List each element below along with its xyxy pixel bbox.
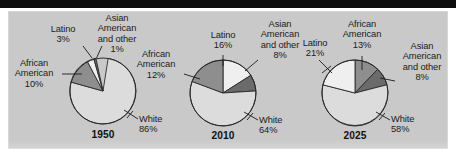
label-1950-african-line2: American: [15, 68, 53, 78]
label-2010-african-american: African American 12%: [128, 49, 184, 80]
label-2025-white-name: White: [391, 114, 414, 124]
year-label-2010: 2010: [203, 130, 243, 141]
label-2025-african-line1: African: [348, 19, 376, 29]
label-1950-asian-value: 1%: [110, 44, 123, 54]
label-2025-latino: Latino 21%: [292, 38, 338, 59]
label-2025-african-value: 13%: [353, 40, 371, 50]
label-2025-latino-name: Latino: [303, 38, 328, 48]
label-2025-white-value: 58%: [391, 124, 409, 134]
label-1950-asian-line1: Asian: [106, 13, 129, 23]
label-2025-asian-line2: American: [403, 51, 441, 61]
label-1950-african-american: African American 10%: [6, 58, 62, 89]
label-2010-latino-value: 16%: [214, 40, 232, 50]
label-1950-latino-value: 3%: [56, 34, 69, 44]
label-1950-white-name: White: [139, 114, 162, 124]
label-2025-asian-line1: Asian: [411, 41, 434, 51]
label-2010-african-line1: African: [142, 49, 170, 59]
pie-2025: [319, 56, 395, 126]
label-1950-white-value: 86%: [139, 124, 157, 134]
label-2025-white: White 58%: [391, 114, 433, 135]
label-1950-asian-line3: and other: [98, 34, 136, 44]
year-label-2025: 2025: [335, 130, 375, 141]
label-2025-latino-value: 21%: [306, 48, 324, 58]
label-2010-white: White 64%: [259, 115, 299, 136]
label-2010-latino-name: Latino: [211, 30, 236, 40]
label-1950-latino-name: Latino: [51, 24, 76, 34]
label-1950-african-line1: African: [20, 58, 48, 68]
label-2010-latino: Latino 16%: [198, 30, 248, 51]
pie-2010: [184, 55, 258, 126]
label-2025-african-american: African American 13%: [333, 19, 391, 50]
label-2010-african-value: 12%: [147, 70, 165, 80]
label-1950-white: White 86%: [139, 114, 179, 135]
label-2010-asian-line1: Asian: [269, 19, 292, 29]
figure-root: Latino 3% Asian American and other 1% Af…: [0, 0, 456, 160]
label-2010-african-line2: American: [137, 59, 175, 69]
label-2010-asian-value: 8%: [273, 50, 286, 60]
label-2025-african-line2: American: [343, 29, 381, 39]
label-2010-white-value: 64%: [259, 125, 277, 135]
label-1950-latino: Latino 3%: [38, 24, 88, 45]
label-1950-african-value: 10%: [25, 79, 43, 89]
label-1950-asian-line2: American: [98, 23, 136, 33]
leader-2010-asian-other: [245, 60, 258, 71]
pie-1950: [62, 46, 138, 124]
label-2025-asian-other: Asian American and other 8%: [392, 41, 452, 83]
year-label-1950: 1950: [83, 129, 123, 140]
label-2010-white-name: White: [259, 115, 282, 125]
label-2025-asian-value: 8%: [415, 72, 428, 82]
label-2025-asian-line3: and other: [403, 62, 441, 72]
